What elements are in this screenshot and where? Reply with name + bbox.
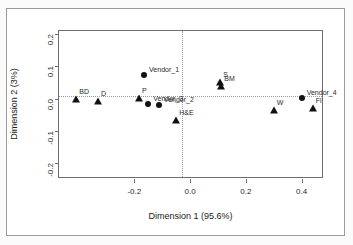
figure-container: Vendor_1Vendor_3Vendor_2Vendor_4BDDPH&ES… <box>0 0 353 245</box>
y-tick <box>55 99 59 100</box>
data-point-d <box>94 97 102 104</box>
data-point-bd <box>72 95 80 102</box>
x-tick-label: -0.2 <box>127 187 141 196</box>
x-tick-label: 0.2 <box>240 187 251 196</box>
data-point-label: P <box>142 87 147 95</box>
data-point-label: BD <box>79 88 89 96</box>
data-point-label: D <box>101 90 106 98</box>
y-tick <box>55 66 59 67</box>
y-tick <box>55 34 59 35</box>
data-point-bm <box>217 82 225 89</box>
data-point-vendor_1 <box>141 72 147 78</box>
x-tick <box>302 179 303 183</box>
data-point-label: H&E <box>179 109 193 117</box>
data-point-fl <box>309 104 317 111</box>
data-point-label: Vendor_2 <box>164 96 194 104</box>
data-point-label: BM <box>224 75 235 83</box>
x-tick <box>246 179 247 183</box>
plot-panel: Vendor_1Vendor_3Vendor_2Vendor_4BDDPH&ES… <box>58 30 323 178</box>
y-axis-title: Dimension 2 (3%) <box>9 68 19 140</box>
data-point-vendor_3 <box>145 101 151 107</box>
x-tick <box>134 179 135 183</box>
x-tick-label: 0.0 <box>185 187 196 196</box>
y-tick <box>55 131 59 132</box>
data-point-label: Vendor_1 <box>149 66 179 74</box>
data-point-w <box>270 107 278 114</box>
data-point-p <box>135 94 143 101</box>
data-point-vendor_4 <box>299 95 305 101</box>
y-tick-label: -0.2 <box>46 163 55 177</box>
zero-line-vertical <box>182 31 183 177</box>
data-point-label: W <box>277 99 284 107</box>
data-point-he <box>172 117 180 124</box>
x-axis-title: Dimension 1 (95.6%) <box>58 211 323 221</box>
y-tick <box>55 163 59 164</box>
x-tick-label: 0.4 <box>296 187 307 196</box>
data-point-label: Fl <box>316 97 322 105</box>
y-tick-label: 0.0 <box>46 99 55 110</box>
y-tick-label: -0.1 <box>46 131 55 145</box>
data-point-vendor_2 <box>156 102 162 108</box>
y-tick-label: 0.1 <box>46 66 55 77</box>
x-tick <box>190 179 191 183</box>
y-tick-label: 0.2 <box>46 34 55 45</box>
